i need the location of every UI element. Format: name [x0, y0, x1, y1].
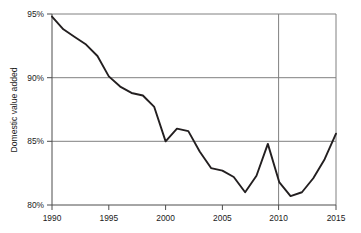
y-tick-label-95: 95%: [27, 9, 44, 19]
x-tick-marks: [52, 205, 336, 210]
y-tick-marks: [47, 14, 52, 205]
y-tick-label-80: 80%: [27, 200, 44, 210]
x-tick-label-2010: 2010: [269, 213, 288, 223]
plot-background: [52, 14, 336, 205]
line-chart: 95% 90% 85% 80% 1990 1995 2000 2005 2010…: [0, 0, 361, 233]
x-tick-label-2015: 2015: [327, 213, 346, 223]
x-tick-label-1995: 1995: [99, 213, 118, 223]
x-tick-label-2000: 2000: [156, 213, 175, 223]
x-tick-label-2005: 2005: [213, 213, 232, 223]
y-axis-title: Domestic value added: [9, 67, 19, 152]
y-tick-label-90: 90%: [27, 73, 44, 83]
y-tick-label-85: 85%: [27, 136, 44, 146]
chart-figure: 95% 90% 85% 80% 1990 1995 2000 2005 2010…: [0, 0, 361, 233]
x-tick-label-1990: 1990: [43, 213, 62, 223]
